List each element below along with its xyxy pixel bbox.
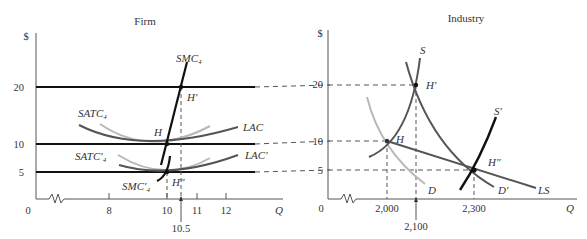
satc4-label: SATC4 (78, 107, 107, 121)
demand-d-label: D (427, 184, 436, 196)
supply-s-label: S (420, 44, 426, 56)
firm-panel: Firm $ 20 10 5 0 8 10 11 12 10.5 Q (14, 15, 331, 234)
firm-origin: 0 (25, 205, 30, 216)
industry-y-tick-10: 10 (313, 136, 324, 147)
supply-s-prime-label: S′ (494, 105, 503, 117)
firm-x-tick-11: 11 (192, 205, 202, 216)
firm-h-label: H (153, 126, 163, 138)
firm-point-h-prime (179, 85, 183, 89)
firm-title: Firm (134, 15, 156, 27)
firm-h-double-prime-label: H″ (171, 176, 185, 188)
firm-point-h-double-prime (165, 170, 169, 174)
firm-x-tick-10: 10 (162, 205, 173, 216)
satc4-prime-label: SATC′4 (75, 150, 107, 164)
industry-x-tick-2300: 2,300 (462, 203, 486, 214)
smc4-curve (161, 62, 187, 165)
industry-x-marker: 2,100 (404, 221, 428, 232)
diagram-canvas: Firm $ 20 10 5 0 8 10 11 12 10.5 Q (0, 0, 587, 239)
demand-d-prime-label: D′ (497, 184, 509, 196)
industry-h-prime-label: H′ (425, 79, 437, 91)
smc4-prime-label: SMC′4 (122, 180, 150, 194)
firm-y-tick-20: 20 (14, 82, 25, 93)
ls-label: LS (537, 184, 550, 196)
firm-y-axis-label: $ (23, 31, 28, 42)
industry-y-tick-20: 20 (313, 79, 324, 90)
demand-curve-d-prime (406, 62, 494, 187)
firm-y-tick-5: 5 (19, 167, 24, 178)
industry-h-double-prime-label: H″ (487, 156, 501, 168)
supply-curve-s-prime (460, 117, 496, 190)
supply-curve-s (369, 58, 420, 157)
smc4-prime-curve (157, 156, 170, 181)
industry-point-h-prime (414, 83, 418, 87)
industry-y-tick-5: 5 (318, 165, 323, 176)
industry-point-h (385, 139, 389, 143)
lac-prime-label: LAC′ (244, 149, 268, 161)
industry-panel: Industry $ 20 10 5 0 2,000 2,300 2,100 Q (313, 12, 578, 232)
firm-point-h (165, 142, 169, 146)
industry-x-tick-2000: 2,000 (375, 203, 399, 214)
firm-x-axis-label: Q (275, 204, 283, 216)
industry-y-axis-label: $ (317, 28, 322, 39)
lac-label: LAC (242, 121, 264, 133)
firm-h-prime-label: H′ (186, 91, 198, 103)
firm-x-tick-12: 12 (221, 205, 232, 216)
firm-x-axis (36, 194, 283, 203)
smc4-label: SMC4 (176, 52, 202, 66)
long-run-supply-ls (387, 141, 536, 188)
industry-title: Industry (448, 12, 485, 24)
industry-x-axis-label: Q (566, 202, 574, 214)
lac-prime-curve (119, 155, 238, 171)
firm-y-tick-10: 10 (14, 139, 25, 150)
industry-h-label: H (395, 133, 405, 145)
industry-point-h-double-prime (471, 167, 476, 172)
firm-x-marker: 10.5 (172, 223, 190, 234)
firm-x-tick-8: 8 (106, 205, 111, 216)
industry-origin: 0 (318, 203, 323, 214)
